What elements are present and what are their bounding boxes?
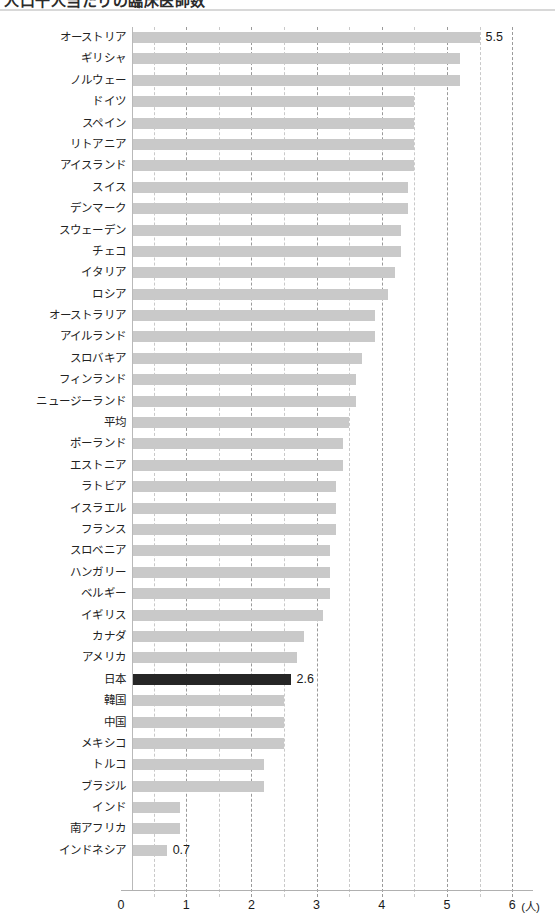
bar-row: ブラジル (0, 776, 555, 797)
category-label: インド (0, 799, 126, 815)
bar-row: 中国 (0, 712, 555, 733)
bar (133, 717, 284, 728)
category-label: デンマーク (0, 200, 126, 216)
bar (133, 331, 375, 342)
bar (133, 118, 414, 129)
category-label: ベルギー (0, 585, 126, 601)
bar-row: チェコ (0, 241, 555, 262)
category-label: イタリア (0, 264, 126, 280)
bar-row: イギリス (0, 605, 555, 626)
bar (133, 524, 336, 535)
bar (133, 438, 343, 449)
category-label: アイルランド (0, 328, 126, 344)
bar-row: アイスランド (0, 155, 555, 176)
bar-container (133, 182, 408, 193)
bar-container (133, 481, 336, 492)
category-label: カナダ (0, 628, 126, 644)
category-label: スイス (0, 179, 126, 195)
category-label: ノルウェー (0, 72, 126, 88)
bar (133, 32, 480, 43)
bar-row: イタリア (0, 262, 555, 283)
bar-container (133, 631, 304, 642)
bar-container (133, 310, 375, 321)
category-label: ドイツ (0, 93, 126, 109)
bar-container (133, 160, 414, 171)
category-label: ポーランド (0, 435, 126, 451)
title-divider (0, 9, 555, 11)
bar-container (133, 203, 408, 214)
category-label: 中国 (0, 714, 126, 730)
category-label: スロベニア (0, 542, 126, 558)
bar-row: 平均 (0, 412, 555, 433)
bar (133, 845, 167, 856)
bar (133, 588, 330, 599)
bar-row: フランス (0, 519, 555, 540)
bar-container (133, 610, 323, 621)
bar-container (133, 374, 356, 385)
bar-row: スウェーデン (0, 220, 555, 241)
bar (133, 160, 414, 171)
bar-row: ベルギー (0, 583, 555, 604)
category-label: ブラジル (0, 778, 126, 794)
bar-container (133, 545, 330, 556)
bar-container (133, 396, 356, 407)
bar-row: スイス (0, 177, 555, 198)
bar-row: エストニア (0, 455, 555, 476)
category-label: イスラエル (0, 500, 126, 516)
bar (133, 225, 401, 236)
bar-row: アイルランド (0, 326, 555, 347)
bar (133, 545, 330, 556)
bar (133, 695, 284, 706)
x-tick-label: 6 (509, 898, 516, 912)
bar-container (133, 503, 336, 514)
bar (133, 460, 343, 471)
category-label: オーストラリア (0, 307, 126, 323)
category-label: トルコ (0, 756, 126, 772)
bar-row: 南アフリカ (0, 818, 555, 839)
bar-row: スペイン (0, 113, 555, 134)
bar (133, 781, 264, 792)
category-label: 南アフリカ (0, 820, 126, 836)
bar-container (133, 331, 375, 342)
bar (133, 674, 291, 685)
category-label: フィンランド (0, 371, 126, 387)
bar-row: インドネシア0.7 (0, 840, 555, 861)
category-label: ニュージーランド (0, 393, 126, 409)
bar-container (133, 267, 395, 278)
bar-row: ポーランド (0, 433, 555, 454)
bar-row: オーストラリア (0, 305, 555, 326)
bar-container (133, 289, 388, 300)
bar-container (133, 139, 414, 150)
bar-container (133, 118, 414, 129)
bar (133, 182, 408, 193)
bar-container (133, 781, 264, 792)
bar (133, 53, 460, 64)
bar-row: メキシコ (0, 733, 555, 754)
category-label: リトアニア (0, 136, 126, 152)
category-label: スペイン (0, 115, 126, 131)
bar-container (133, 802, 180, 813)
bar (133, 652, 297, 663)
bar-container (133, 759, 264, 770)
bar (133, 823, 180, 834)
category-label: エストニア (0, 457, 126, 473)
bar (133, 374, 356, 385)
category-label: アメリカ (0, 649, 126, 665)
bar-container (133, 823, 180, 834)
category-label: メキシコ (0, 735, 126, 751)
bar (133, 396, 356, 407)
category-label: フランス (0, 521, 126, 537)
x-axis-unit-label: (人) (521, 898, 540, 914)
bar-row: 日本2.6 (0, 669, 555, 690)
bar-row: ハンガリー (0, 562, 555, 583)
bar (133, 96, 414, 107)
category-label: ハンガリー (0, 564, 126, 580)
bar (133, 567, 330, 578)
category-label: ラトビア (0, 478, 126, 494)
category-label: ギリシャ (0, 50, 126, 66)
category-label: イギリス (0, 607, 126, 623)
bar (133, 203, 408, 214)
x-tick-label: 4 (378, 898, 385, 912)
x-tick-label: 1 (183, 898, 190, 912)
bar-container (133, 567, 330, 578)
